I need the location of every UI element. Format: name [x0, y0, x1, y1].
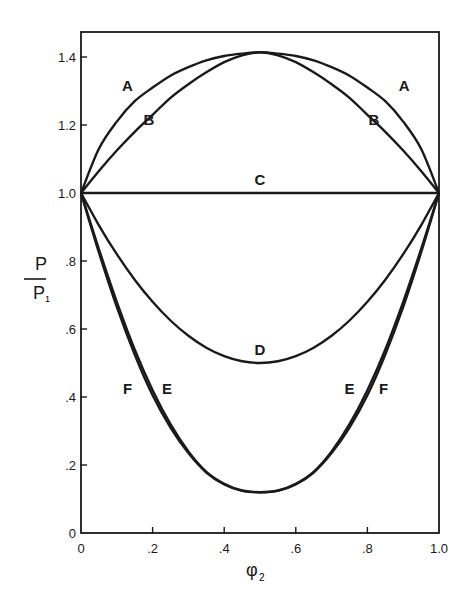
curve-label-a: A: [399, 77, 410, 94]
curve-label-a: A: [122, 77, 133, 94]
y-tick-label: .8: [65, 254, 76, 269]
x-tick-label: .8: [362, 541, 373, 556]
curve-label-d: D: [255, 341, 266, 358]
curve-label-b: B: [144, 111, 155, 128]
x-tick-label: .6: [290, 541, 301, 556]
curves: [81, 52, 439, 492]
y-tick-label: .6: [65, 322, 76, 337]
curve-label-e: E: [344, 380, 354, 397]
x-tick-label: 1.0: [430, 541, 448, 556]
y-tick-label: 1.2: [58, 118, 76, 133]
x-tick-label: .2: [147, 541, 158, 556]
x-tick-label: 0: [77, 541, 84, 556]
y-tick-label: 1.4: [58, 50, 76, 65]
y-tick-label: 0: [69, 526, 76, 541]
curve-label-b: B: [368, 111, 379, 128]
curve-label-f: F: [123, 380, 132, 397]
y-axis-label-denominator: P: [33, 283, 45, 303]
x-tick-label: .4: [219, 541, 230, 556]
y-tick-label: .2: [65, 458, 76, 473]
curve-d: [81, 193, 439, 363]
y-axis-label-subscript: 1: [45, 294, 50, 304]
plot-border: [81, 32, 439, 533]
y-tick-label: 1.0: [58, 186, 76, 201]
plot-frame: [81, 32, 439, 533]
x-axis-label-subscript: 2: [259, 572, 265, 583]
curve-label-c: C: [255, 171, 266, 188]
chart: 0.2.4.6.81.01.21.40.2.4.6.81.0 ABABCDFEE…: [0, 0, 470, 607]
y-axis-label-numerator: P: [35, 254, 47, 274]
curve-label-e: E: [162, 380, 172, 397]
curve-labels: ABABCDFEEF: [122, 77, 410, 397]
y-tick-label: .4: [65, 390, 76, 405]
x-axis-label: φ: [246, 560, 258, 580]
curve-label-f: F: [379, 380, 388, 397]
